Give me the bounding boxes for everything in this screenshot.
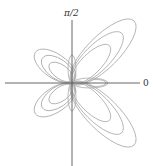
label-pi-over-2: π/2 (64, 8, 79, 18)
polar-plot (0, 0, 153, 166)
cropped-caption (40, 0, 150, 2)
label-zero: 0 (143, 78, 149, 88)
